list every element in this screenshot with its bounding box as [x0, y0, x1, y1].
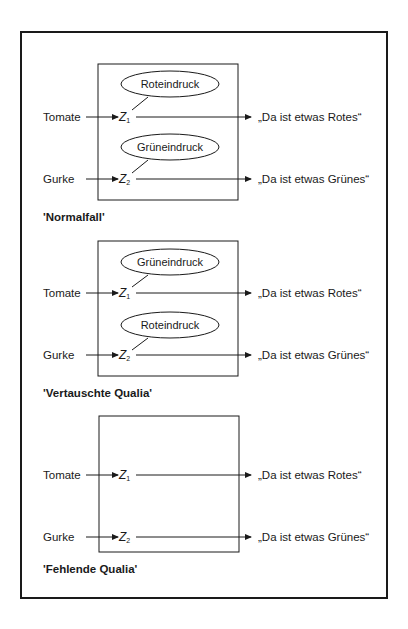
- output-label: „Da ist etwas Rotes“: [258, 286, 362, 300]
- state-label: Z2: [119, 172, 130, 190]
- quale-label: Grüneindruck: [121, 255, 219, 269]
- input-label: Gurke: [43, 172, 74, 186]
- input-label: Gurke: [43, 530, 74, 544]
- state-label: Z2: [119, 530, 130, 548]
- quale-label: Roteindruck: [121, 318, 219, 332]
- state-label: Z1: [119, 468, 130, 486]
- quale-label: Grüneindruck: [121, 140, 219, 154]
- panel-title: 'Normalfall': [43, 210, 105, 224]
- output-label: „Da ist etwas Rotes“: [258, 468, 362, 482]
- input-label: Tomate: [43, 110, 81, 124]
- state-label: Z1: [119, 286, 130, 304]
- input-label: Gurke: [43, 348, 74, 362]
- quale-label: Roteindruck: [121, 77, 219, 91]
- panel-title: 'Fehlende Qualia': [43, 562, 137, 576]
- output-label: „Da ist etwas Rotes“: [258, 110, 362, 124]
- state-label: Z2: [119, 348, 130, 366]
- panel-title: 'Vertauschte Qualia': [43, 386, 152, 400]
- output-label: „Da ist etwas Grünes“: [258, 172, 369, 186]
- input-label: Tomate: [43, 286, 81, 300]
- state-label: Z1: [119, 110, 130, 128]
- output-label: „Da ist etwas Grünes“: [258, 348, 369, 362]
- output-label: „Da ist etwas Grünes“: [258, 530, 369, 544]
- input-label: Tomate: [43, 468, 81, 482]
